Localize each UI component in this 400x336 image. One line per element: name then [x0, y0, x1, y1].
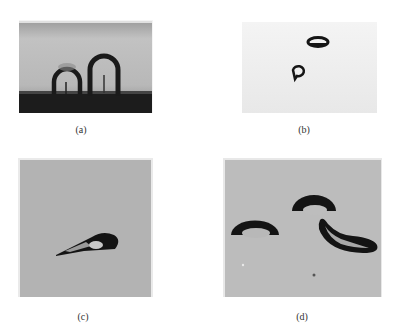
panel-a-label: (a) — [61, 124, 101, 135]
panel-c-label: (c) — [63, 311, 103, 322]
panel-b-image — [242, 22, 377, 113]
panel-c-image — [18, 158, 153, 297]
panel-a-bubbles — [19, 20, 153, 113]
panel-d-label: (d) — [282, 311, 322, 322]
panel-a-image — [19, 20, 153, 113]
panel-c-bubbles — [18, 158, 153, 297]
panel-b-bubbles — [242, 22, 377, 113]
panel-b-label: (b) — [284, 124, 324, 135]
panel-d-bubbles — [223, 158, 382, 297]
panel-d-image — [223, 158, 382, 297]
